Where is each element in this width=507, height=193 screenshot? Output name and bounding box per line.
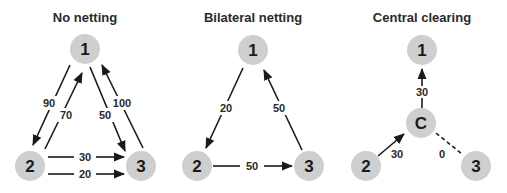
edge-label: 100 [113, 97, 131, 109]
panel-bilateral-netting: Bilateral netting 20 50 50 1 2 3 [182, 10, 324, 181]
node-label: 1 [248, 41, 257, 60]
edge-label: 0 [439, 148, 445, 160]
edge-label: 30 [416, 86, 428, 98]
node-label: 3 [136, 157, 145, 176]
panel-title: Bilateral netting [204, 10, 302, 25]
node-label: 2 [25, 157, 34, 176]
node-label: 2 [192, 157, 201, 176]
edge-label: 30 [391, 148, 403, 160]
node-label: 3 [304, 157, 313, 176]
panel-central-clearing: Central clearing 30 30 0 1 C 2 3 [351, 10, 491, 181]
panel-no-netting: No netting 90 70 50 100 30 20 1 2 3 [15, 10, 156, 181]
edge-label: 50 [99, 109, 111, 121]
edge-label: 20 [79, 168, 91, 180]
node-label: 1 [80, 40, 89, 59]
edge-label: 70 [60, 109, 72, 121]
edge-label: 20 [220, 102, 232, 114]
node-label: 2 [361, 157, 370, 176]
node-label: C [415, 114, 427, 133]
node-label: 1 [417, 41, 426, 60]
edge-label: 50 [246, 160, 258, 172]
netting-diagram: No netting 90 70 50 100 30 20 1 2 3 Bila… [0, 0, 507, 193]
edge-label: 30 [79, 151, 91, 163]
panel-title: No netting [53, 10, 117, 25]
edge-label: 50 [273, 102, 285, 114]
edge-label: 90 [43, 97, 55, 109]
node-label: 3 [471, 157, 480, 176]
panel-title: Central clearing [373, 10, 471, 25]
